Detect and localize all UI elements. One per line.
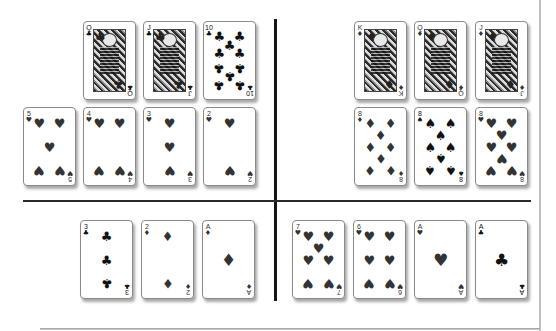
hearts-pip-icon: ♥ <box>506 163 518 176</box>
hearts-pip-icon: ♥ <box>363 230 375 243</box>
hearts-icon: ♥ <box>25 117 33 124</box>
card-a-of-hearts[interactable]: A♥A♥♥ <box>414 220 467 299</box>
card-10-of-clubs[interactable]: 10♣10♣♣♣♣♣♣♣♣♣♣♣ <box>203 21 256 100</box>
card-2-of-hearts[interactable]: 2♥2♥♥♥ <box>203 107 256 186</box>
card-corner-index: 10♣ <box>205 24 213 38</box>
card-rank: 8 <box>518 176 526 183</box>
hearts-pip-icon: ♥ <box>33 117 45 130</box>
card-rank: 10 <box>246 90 254 97</box>
hearts-pip-icon: ♥ <box>323 276 335 289</box>
diamonds-pip-icon: ♦ <box>364 163 376 176</box>
card-corner-index: A♦ <box>204 223 212 237</box>
diamonds-icon: ♦ <box>457 83 465 90</box>
vertical-divider <box>274 19 277 301</box>
spades-icon: ♠ <box>416 117 424 124</box>
clubs-pip-icon: ♣ <box>101 253 113 266</box>
card-j-of-diamonds[interactable]: J♦J♦♦♦ <box>475 21 528 100</box>
card-corner-index: J♦ <box>518 83 526 97</box>
hearts-pip-icon: ♥ <box>384 230 396 243</box>
diamonds-icon: ♦ <box>487 31 498 43</box>
diamonds-icon: ♦ <box>426 31 437 43</box>
card-4-of-hearts[interactable]: 4♥4♥♥♥♥♥ <box>83 107 136 186</box>
diamonds-icon: ♦ <box>397 83 405 90</box>
spades-pip-icon: ♠ <box>445 163 457 176</box>
clubs-icon: ♣ <box>173 78 184 90</box>
card-q-of-clubs[interactable]: Q♣Q♣♣♣ <box>83 21 136 100</box>
card-corner-index: Q♦ <box>416 24 424 38</box>
hearts-icon: ♥ <box>145 117 153 124</box>
hearts-icon: ♥ <box>126 169 134 176</box>
card-rank: 8 <box>397 176 405 183</box>
diamonds-icon: ♦ <box>518 83 526 90</box>
diamonds-icon: ♦ <box>356 117 364 124</box>
card-8-of-hearts[interactable]: 8♥8♥♥♥♥♥♥♥♥♥ <box>475 107 528 186</box>
diamonds-icon: ♦ <box>505 78 516 90</box>
card-3-of-hearts[interactable]: 3♥3♥♥♥♥ <box>143 107 196 186</box>
card-corner-index: 8♥ <box>518 169 526 183</box>
card-rank: J <box>518 90 526 97</box>
card-corner-index: 7♥ <box>294 223 302 237</box>
hearts-pip-icon: ♥ <box>506 117 518 130</box>
diamonds-icon: ♦ <box>477 31 485 38</box>
card-j-of-clubs[interactable]: J♣J♣♣♣ <box>143 21 196 100</box>
card-corner-index: 10♣ <box>246 83 254 97</box>
card-a-of-clubs[interactable]: A♣A♣♣ <box>475 220 528 299</box>
hearts-pip-icon: ♥ <box>33 163 45 176</box>
card-rank: A <box>245 289 253 296</box>
hearts-icon: ♥ <box>246 169 254 176</box>
card-corner-index: 4♥ <box>126 169 134 183</box>
clubs-icon: ♣ <box>85 31 93 38</box>
hearts-pip-icon: ♥ <box>363 276 375 289</box>
hearts-pip-icon: ♥ <box>224 163 236 176</box>
clubs-pip-icon: ♣ <box>234 46 246 59</box>
card-corner-index: 3♥ <box>145 110 153 124</box>
card-corner-index: K♦ <box>356 24 364 38</box>
card-rank: 3 <box>123 289 131 296</box>
card-corner-index: J♣ <box>145 24 153 38</box>
card-rank: 3 <box>186 176 194 183</box>
hearts-pip-icon: ♥ <box>44 140 56 153</box>
hearts-pip-icon: ♥ <box>485 163 497 176</box>
diamonds-icon: ♦ <box>184 282 192 289</box>
card-8-of-diamonds[interactable]: 8♦8♦♦♦♦♦♦♦♦♦ <box>354 107 407 186</box>
card-table: Q♣Q♣♣♣J♣J♣♣♣10♣10♣♣♣♣♣♣♣♣♣♣♣5♥5♥♥♥♥♥♥4♥4… <box>0 0 556 331</box>
card-rank: 2 <box>184 289 192 296</box>
card-corner-index: 3♣ <box>82 223 90 237</box>
diamonds-pip-icon: ♦ <box>162 230 174 243</box>
clubs-icon: ♣ <box>477 230 485 237</box>
card-6-of-hearts[interactable]: 6♥6♥♥♥♥♥♥♥ <box>353 220 406 299</box>
card-rank: J <box>186 90 194 97</box>
card-corner-index: Q♣ <box>126 83 134 97</box>
card-k-of-diamonds[interactable]: K♦K♦♦♦ <box>354 21 407 100</box>
card-3-of-clubs[interactable]: 3♣3♣♣♣♣ <box>80 220 133 299</box>
clubs-pip-icon: ♣ <box>213 79 225 92</box>
card-corner-index: 4♥ <box>85 110 93 124</box>
hearts-pip-icon: ♥ <box>384 253 396 266</box>
card-rank: 4 <box>126 176 134 183</box>
card-q-of-diamonds[interactable]: Q♦Q♦♦♦ <box>414 21 467 100</box>
diamonds-pip-icon: ♦ <box>385 163 397 176</box>
horizontal-divider <box>23 200 531 202</box>
hearts-icon: ♥ <box>416 230 424 237</box>
card-rank: 6 <box>396 289 404 296</box>
card-7-of-hearts[interactable]: 7♥7♥♥♥♥♥♥♥♥ <box>292 220 345 299</box>
spades-icon: ♠ <box>457 169 465 176</box>
clubs-icon: ♣ <box>145 31 153 38</box>
card-a-of-diamonds[interactable]: A♦A♦♦ <box>202 220 255 299</box>
clubs-pip-icon: ♣ <box>234 29 246 42</box>
diamonds-icon: ♦ <box>143 230 151 237</box>
clubs-icon: ♣ <box>123 282 131 289</box>
hearts-pip-icon: ♥ <box>224 117 236 130</box>
card-8-of-spades[interactable]: 8♠8♠♠♠♠♠♠♠♠♠ <box>414 107 467 186</box>
diamonds-icon: ♦ <box>204 230 212 237</box>
clubs-pip-icon: ♣ <box>213 46 225 59</box>
card-2-of-diamonds[interactable]: 2♦2♦♦♦ <box>141 220 194 299</box>
card-corner-index: 2♥ <box>205 110 213 124</box>
diamonds-icon: ♦ <box>384 78 395 90</box>
card-rank: 5 <box>66 176 74 183</box>
hearts-pip-icon: ♥ <box>54 163 66 176</box>
card-corner-index: 3♥ <box>186 169 194 183</box>
clubs-pip-icon: ♣ <box>101 276 113 289</box>
card-5-of-hearts[interactable]: 5♥5♥♥♥♥♥♥ <box>23 107 76 186</box>
bottom-border <box>40 328 540 330</box>
